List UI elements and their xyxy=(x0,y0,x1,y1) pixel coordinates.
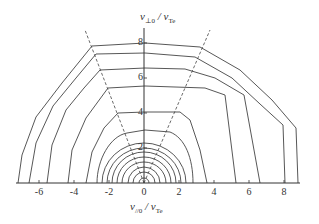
contour-6 xyxy=(97,130,193,183)
contour-4 xyxy=(68,86,236,183)
x-tick-label: -6 xyxy=(35,186,43,197)
x-axis-label: v//0 / vTe xyxy=(130,200,163,215)
y-tick-label: 2 xyxy=(138,141,143,152)
contour-chart xyxy=(0,0,319,224)
x-tick-label: 0 xyxy=(142,186,147,197)
y-tick-label: 8 xyxy=(138,36,143,47)
contour-lines xyxy=(18,43,298,183)
y-axis-label: v⊥0 / vTe xyxy=(140,10,175,25)
x-tick-label: 6 xyxy=(247,186,252,197)
contour-2 xyxy=(29,53,285,183)
x-tick-label: -2 xyxy=(105,186,113,197)
x-tick-label: 2 xyxy=(177,186,182,197)
x-tick-label: -4 xyxy=(70,186,78,197)
x-tick-label: 4 xyxy=(212,186,217,197)
contour-3 xyxy=(47,68,260,183)
x-tick-label: 8 xyxy=(282,186,287,197)
dashed-boundary-right xyxy=(144,30,210,183)
y-tick-label: 4 xyxy=(138,106,143,117)
y-tick-label: 6 xyxy=(138,71,143,82)
